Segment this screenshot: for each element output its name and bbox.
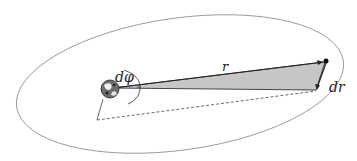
- diagram-svg: [0, 0, 357, 161]
- swept-area: [113, 62, 325, 90]
- radial-change-label: dr: [329, 79, 345, 95]
- dashed-line: [97, 91, 316, 120]
- radius-label: r: [222, 59, 228, 74]
- satellite-point: [324, 59, 329, 64]
- angle-label: dφ: [115, 69, 134, 85]
- orbit-diagram: dφ r dr: [0, 0, 357, 161]
- perigee-line: [97, 99, 103, 120]
